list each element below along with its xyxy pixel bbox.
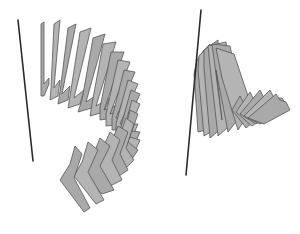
left-plate-stack bbox=[41, 20, 140, 212]
right-helix-panel bbox=[186, 10, 290, 175]
right-plate-stack bbox=[194, 40, 290, 138]
chevron-plate bbox=[50, 20, 60, 100]
chevron-plate bbox=[41, 22, 49, 96]
helix-diagram bbox=[0, 0, 300, 234]
left-helix-panel bbox=[18, 20, 140, 212]
left-axis-line bbox=[18, 20, 33, 161]
